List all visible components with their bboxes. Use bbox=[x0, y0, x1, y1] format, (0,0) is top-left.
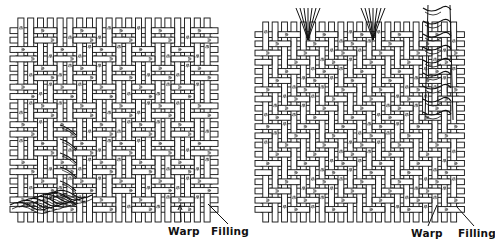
basket-weave-drawing bbox=[0, 0, 245, 248]
filling-label-right: Filling bbox=[458, 227, 495, 239]
warp-label-left: Warp bbox=[168, 225, 200, 237]
filling-label-left: Filling bbox=[211, 225, 249, 237]
warp-label-right: Warp bbox=[411, 227, 443, 239]
basket-weave-illustration: Warp Filling bbox=[0, 0, 245, 248]
twill-weave-drawing bbox=[245, 0, 495, 248]
twill-weave-illustration: Warp Filling bbox=[245, 0, 495, 248]
